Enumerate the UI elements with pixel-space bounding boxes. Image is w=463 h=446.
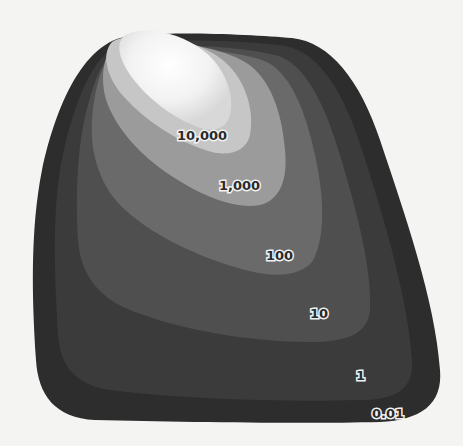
label-1: 1 (356, 368, 365, 383)
contour-diagram: 10,000 1,000 100 10 1 0.01 (0, 0, 463, 446)
label-0.01: 0.01 (372, 406, 404, 421)
label-10000: 10,000 (177, 128, 227, 143)
label-100: 100 (266, 248, 293, 263)
label-1000: 1,000 (219, 178, 260, 193)
label-10: 10 (310, 306, 328, 321)
